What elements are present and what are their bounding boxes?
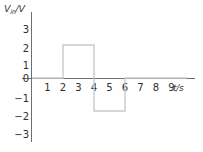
chart-figure: Vin/V 3 2 1 0 −1 −2 −3 123456789t/s: [0, 0, 203, 152]
waveform-line: [32, 45, 187, 111]
waveform-plot: [0, 0, 203, 152]
